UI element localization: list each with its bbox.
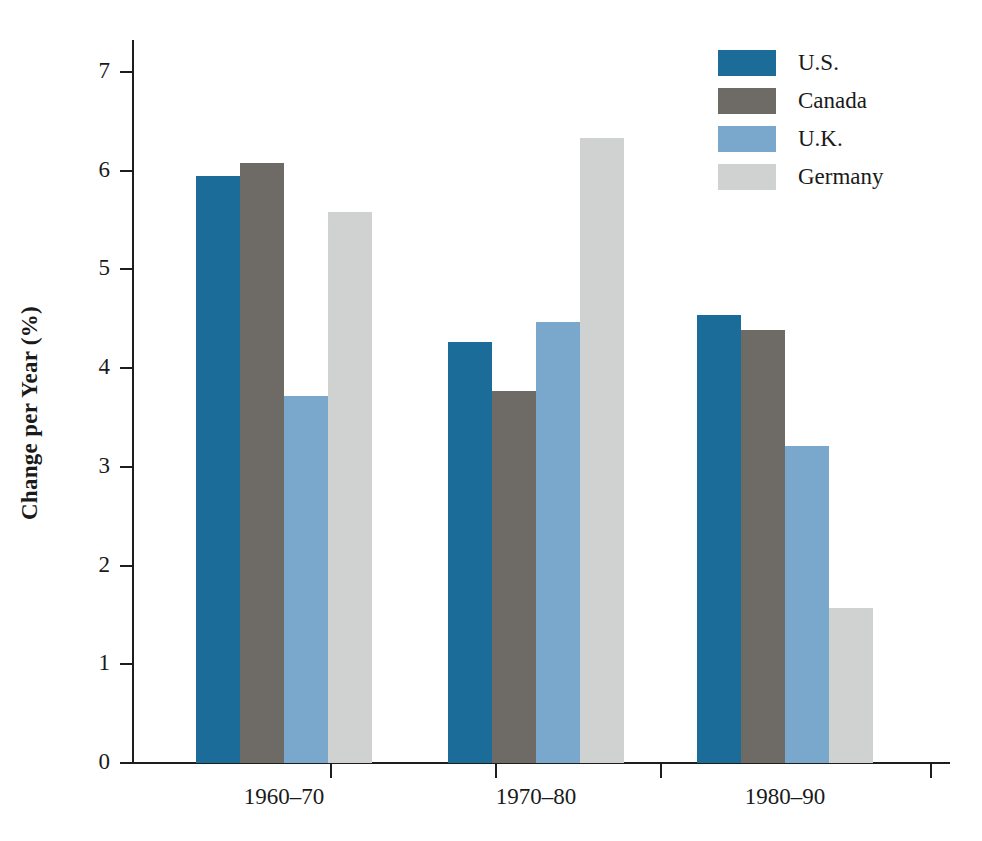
legend-item: U.K.	[718, 120, 884, 158]
bar-canada-0	[240, 163, 284, 763]
legend-swatch-canada	[718, 88, 776, 114]
y-tick-mark	[120, 268, 133, 270]
y-tick-label: 0	[78, 750, 110, 773]
y-tick-label: 3	[78, 454, 110, 477]
y-tick-label: 5	[78, 256, 110, 279]
bar-us-1	[448, 342, 492, 763]
y-axis-label: Change per Year (%)	[17, 178, 43, 648]
bar-us-0	[196, 176, 240, 763]
bar-germany-2	[829, 608, 873, 763]
x-tick-label: 1980–90	[685, 784, 885, 810]
y-tick-label: 1	[78, 651, 110, 674]
legend-item: Canada	[718, 82, 884, 120]
bar-germany-0	[328, 212, 372, 763]
y-tick-label: 4	[78, 355, 110, 378]
legend-swatch-uk	[718, 126, 776, 152]
y-tick-label: 6	[78, 158, 110, 181]
bar-canada-1	[492, 391, 536, 763]
legend-label: U.K.	[798, 126, 843, 152]
x-tick-mark	[330, 764, 332, 778]
y-tick-mark	[120, 71, 133, 73]
x-tick-label: 1960–70	[184, 784, 384, 810]
y-tick-label: 2	[78, 553, 110, 576]
x-tick-mark	[495, 764, 497, 778]
y-tick-mark	[120, 762, 133, 764]
x-tick-label: 1970–80	[436, 784, 636, 810]
bar-uk-1	[536, 322, 580, 763]
bar-uk-2	[785, 446, 829, 763]
y-tick-mark	[120, 170, 133, 172]
legend-swatch-germany	[718, 164, 776, 190]
x-tick-mark	[660, 764, 662, 778]
y-tick-label: 7	[78, 59, 110, 82]
legend-item: U.S.	[718, 44, 884, 82]
legend: U.S.CanadaU.K.Germany	[718, 44, 884, 196]
x-tick-mark	[930, 764, 932, 778]
legend-label: Germany	[798, 164, 884, 190]
bar-chart: Change per Year (%) 76543210 1960–701970…	[0, 0, 982, 841]
bar-uk-0	[284, 396, 328, 763]
legend-swatch-us	[718, 50, 776, 76]
bar-germany-1	[580, 138, 624, 763]
y-axis-line	[132, 40, 134, 764]
legend-item: Germany	[718, 158, 884, 196]
legend-label: Canada	[798, 88, 867, 114]
y-tick-mark	[120, 565, 133, 567]
y-tick-mark	[120, 466, 133, 468]
bar-canada-2	[741, 330, 785, 763]
y-tick-mark	[120, 367, 133, 369]
y-tick-mark	[120, 663, 133, 665]
legend-label: U.S.	[798, 50, 839, 76]
bar-us-2	[697, 315, 741, 763]
